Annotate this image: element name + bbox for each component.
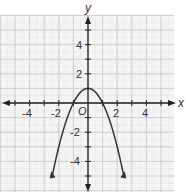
x-tick-label: -4: [22, 107, 32, 119]
x-tick-label: -2: [51, 107, 61, 119]
origin-label: O: [78, 105, 87, 117]
x-axis-label: x: [177, 96, 185, 110]
y-tick-label: -2: [70, 126, 80, 138]
x-tick-label: 2: [113, 107, 119, 119]
y-tick-label: -4: [70, 155, 80, 167]
y-axis-label: y: [84, 1, 92, 15]
y-tick-label: 4: [76, 39, 82, 51]
parabola-graph: x y O -4 -2 2 4 4 2 -2 -4: [0, 0, 186, 195]
x-tick-label: 4: [142, 107, 148, 119]
y-tick-label: 2: [76, 68, 82, 80]
